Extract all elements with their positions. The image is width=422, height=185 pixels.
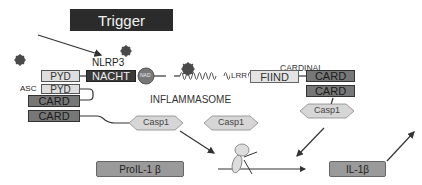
casp1-left-label: Casp1 — [143, 117, 169, 127]
card-text: CARD — [38, 95, 69, 107]
pro-il1b-box: ProIL-1 β — [96, 161, 184, 177]
casp1-middle-label: Casp1 — [218, 117, 244, 127]
casp1-right-label: Casp1 — [314, 105, 340, 115]
nacht-text: NACHT — [92, 70, 130, 82]
cardinal-card-domain-1: CARD — [306, 70, 355, 82]
nlrp3-label: NLRP3 — [92, 57, 124, 68]
nacht-domain: NACHT — [86, 70, 136, 82]
trigger-arrow — [38, 35, 101, 55]
card-text: CARD — [38, 110, 69, 122]
pyd-text: PYD — [50, 71, 71, 82]
fiind-text: FIIND — [260, 71, 289, 83]
cardinal-card-domain-2: CARD — [306, 85, 355, 97]
asc-pyd-domain: PYD — [41, 84, 80, 94]
asc-card-domain: CARD — [28, 95, 80, 107]
pyd-text: PYD — [50, 84, 71, 95]
pro-il1b-text: ProIL-1 β — [119, 164, 160, 175]
nad-label: NAD — [140, 72, 151, 78]
fiind-domain: FIIND — [250, 70, 299, 83]
asc-label: ASC — [20, 84, 36, 93]
inflammasome-label: INFLAMMASOME — [150, 94, 231, 105]
il1b-text: IL-1β — [346, 164, 369, 175]
card-text: CARD — [315, 70, 346, 82]
card-text: CARD — [315, 85, 346, 97]
nlrp3-pyd-domain: PYD — [41, 70, 80, 82]
il1b-box: IL-1β — [329, 161, 386, 177]
lower-card-domain: CARD — [28, 110, 80, 122]
lrr-label: LRR — [230, 71, 248, 80]
